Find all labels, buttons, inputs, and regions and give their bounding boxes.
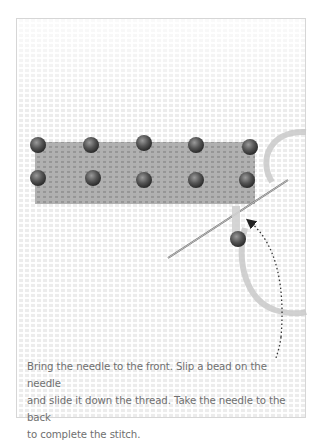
caption-line-1: Bring the needle to the front. Slip a be…	[27, 358, 287, 392]
caption-line-2: and slide it down the thread. Take the n…	[27, 392, 287, 426]
instruction-caption: Bring the needle to the front. Slip a be…	[27, 358, 287, 443]
dotted-arrow-icon	[250, 222, 282, 337]
caption-line-3: to complete the stitch.	[27, 426, 287, 443]
loose-bead	[230, 231, 246, 247]
